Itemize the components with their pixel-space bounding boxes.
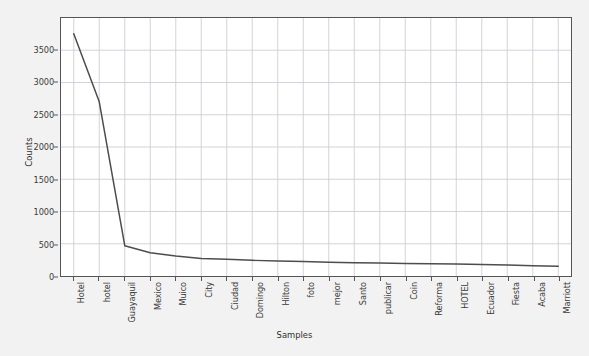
x-tick-mark xyxy=(354,277,355,281)
x-tick-label: Muico xyxy=(178,282,188,306)
chart-figure: 0500100015002000250030003500 HotelhotelG… xyxy=(0,0,589,356)
x-tick-label: City xyxy=(204,282,214,298)
x-tick-label: publicar xyxy=(383,282,393,314)
x-tick-mark xyxy=(457,277,458,281)
x-tick-label: Reforma xyxy=(434,282,444,316)
x-tick-mark xyxy=(252,277,253,281)
x-tick-mark xyxy=(175,277,176,281)
x-tick-label: Acaba xyxy=(537,282,547,307)
x-axis-title: Samples xyxy=(0,330,589,340)
x-tick-mark xyxy=(559,277,560,281)
x-tick-label: Hotel xyxy=(76,282,86,303)
x-tick-label: Domingo xyxy=(255,282,265,318)
x-tick-mark xyxy=(482,277,483,281)
x-tick-mark xyxy=(226,277,227,281)
x-tick-mark xyxy=(431,277,432,281)
x-tick-label: Ciudad xyxy=(230,282,240,310)
x-tick-label: Marriott xyxy=(562,282,572,314)
x-tick-label: hotel xyxy=(102,282,112,302)
x-tick-mark xyxy=(73,277,74,281)
x-tick-mark xyxy=(508,277,509,281)
x-tick-label: foto xyxy=(306,282,316,298)
x-tick-mark xyxy=(303,277,304,281)
x-tick-label: Hilton xyxy=(281,282,291,306)
x-tick-label: Fiesta xyxy=(511,282,521,305)
x-tick-label: Ecuador xyxy=(486,282,496,315)
x-tick-mark xyxy=(124,277,125,281)
x-axis-ticks: HotelhotelGuayaquilMexicoMuicoCityCiudad… xyxy=(0,0,589,356)
x-tick-label: Guayaquil xyxy=(127,282,137,322)
x-tick-label: HOTEL xyxy=(460,282,470,309)
x-tick-mark xyxy=(329,277,330,281)
x-tick-mark xyxy=(534,277,535,281)
x-tick-mark xyxy=(201,277,202,281)
x-tick-label: Coin xyxy=(409,282,419,300)
x-tick-mark xyxy=(380,277,381,281)
x-tick-mark xyxy=(98,277,99,281)
x-tick-label: mejor xyxy=(332,282,342,305)
x-tick-label: Santo xyxy=(358,282,368,305)
x-tick-label: Mexico xyxy=(153,282,163,310)
x-tick-mark xyxy=(150,277,151,281)
x-tick-mark xyxy=(406,277,407,281)
x-tick-mark xyxy=(278,277,279,281)
y-axis-title: Counts xyxy=(24,137,34,166)
